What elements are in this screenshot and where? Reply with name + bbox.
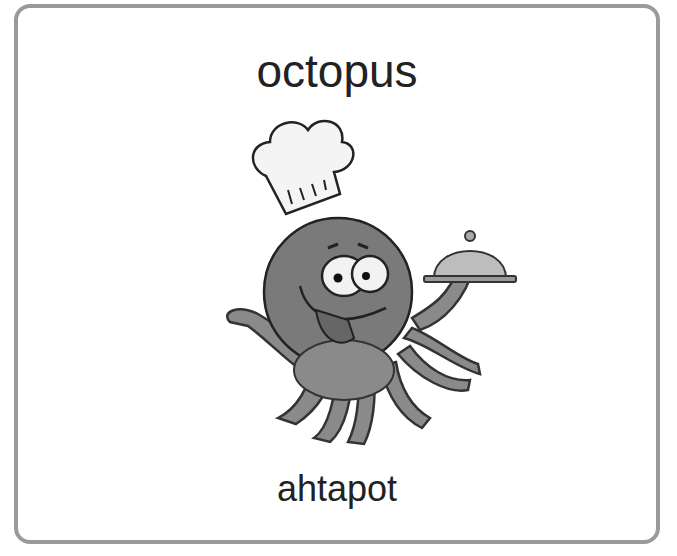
chef-hat-icon: [253, 121, 353, 214]
word-label: octopus: [18, 44, 656, 98]
flashcard: octopus: [14, 4, 660, 544]
cloche-icon: [424, 231, 516, 282]
octopus-head-icon: [264, 218, 412, 400]
translation-label: ahtapot: [18, 468, 656, 510]
chef-octopus-illustration: [208, 108, 548, 453]
